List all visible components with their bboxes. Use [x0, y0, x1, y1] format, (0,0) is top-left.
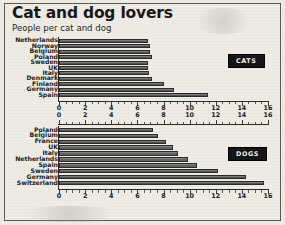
- x-axis-tick-label: 16: [264, 112, 273, 118]
- bar: [59, 44, 150, 48]
- x-axis-tick-minor: [72, 122, 73, 125]
- x-axis-tick-minor: [255, 102, 256, 105]
- x-axis-tick-minor: [177, 102, 178, 105]
- x-axis-tick-minor: [131, 102, 132, 105]
- x-axis-tick-major: [111, 120, 112, 124]
- bar: [59, 128, 153, 132]
- bar: [59, 71, 149, 75]
- x-axis-tick-label: 6: [135, 112, 139, 118]
- x-axis-tick-minor: [72, 190, 73, 193]
- x-axis-tick-minor: [150, 122, 151, 125]
- bar: [59, 169, 218, 173]
- x-axis-tick-label: 10: [185, 193, 194, 199]
- x-axis-tick-minor: [98, 122, 99, 125]
- x-axis-tick-minor: [79, 122, 80, 125]
- x-axis-tick-minor: [105, 122, 106, 125]
- x-axis-tick-label: 2: [83, 193, 87, 199]
- bar: [59, 55, 152, 59]
- x-axis-tick-minor: [196, 102, 197, 105]
- x-axis-tick-minor: [255, 190, 256, 193]
- x-axis-tick-label: 16: [264, 193, 273, 199]
- x-axis-tick-minor: [157, 122, 158, 125]
- x-axis-tick-minor: [209, 122, 210, 125]
- x-axis-tick-major: [59, 120, 60, 124]
- bar: [59, 77, 152, 81]
- bar: [59, 163, 197, 167]
- x-axis-tick-major: [216, 120, 217, 124]
- page-title: Cat and dog lovers: [12, 6, 173, 22]
- bar: [59, 175, 246, 179]
- x-axis-tick-major: [85, 120, 86, 124]
- x-axis-tick-minor: [235, 102, 236, 105]
- x-axis-tick-label: 6: [135, 193, 139, 199]
- x-axis-tick-minor: [118, 190, 119, 193]
- x-axis-tick-major: [268, 120, 269, 124]
- x-axis-tick-minor: [170, 102, 171, 105]
- x-axis-tick-minor: [203, 190, 204, 193]
- x-axis-tick-minor: [209, 102, 210, 105]
- x-axis-tick-minor: [177, 190, 178, 193]
- x-axis-tick-minor: [248, 122, 249, 125]
- x-axis-tick-minor: [222, 122, 223, 125]
- x-axis-tick-major: [242, 120, 243, 124]
- x-axis-tick-minor: [157, 102, 158, 105]
- x-axis-tick-label: 14: [237, 193, 246, 199]
- x-axis-tick-minor: [229, 102, 230, 105]
- x-axis-tick-minor: [196, 190, 197, 193]
- x-axis-tick-label: 0: [57, 112, 61, 118]
- x-axis-tick-minor: [66, 102, 67, 105]
- x-axis-tick-minor: [92, 102, 93, 105]
- x-axis-tick-minor: [235, 190, 236, 193]
- x-axis-tick-minor: [98, 190, 99, 193]
- bar: [59, 140, 166, 144]
- bar: [59, 66, 148, 70]
- bar: [59, 50, 150, 54]
- bar: [59, 134, 158, 138]
- x-axis-tick-minor: [150, 190, 151, 193]
- x-axis-tick-label: 4: [109, 193, 113, 199]
- x-axis-tick-minor: [261, 102, 262, 105]
- x-axis-tick-minor: [124, 122, 125, 125]
- x-axis-tick-minor: [131, 190, 132, 193]
- x-axis-tick-minor: [118, 102, 119, 105]
- x-axis-tick-minor: [222, 190, 223, 193]
- page-subtitle: People per cat and dog: [12, 24, 111, 33]
- x-axis-tick-minor: [124, 190, 125, 193]
- x-axis-tick-minor: [183, 190, 184, 193]
- dogs-chart: PolandBelgiumFranceUKItalyNetherlandsSpa…: [0, 124, 285, 202]
- bar: [59, 93, 208, 97]
- x-axis-tick-minor: [150, 102, 151, 105]
- x-axis-tick-minor: [79, 190, 80, 193]
- x-axis-tick-minor: [222, 102, 223, 105]
- x-axis-tick-minor: [66, 190, 67, 193]
- x-axis-tick-minor: [261, 190, 262, 193]
- bar: [59, 151, 178, 155]
- x-axis-tick-minor: [92, 122, 93, 125]
- x-axis-tick-minor: [144, 190, 145, 193]
- x-axis-tick-minor: [170, 190, 171, 193]
- x-axis-tick-minor: [72, 102, 73, 105]
- x-axis-tick-minor: [144, 102, 145, 105]
- x-axis-tick-minor: [66, 122, 67, 125]
- x-axis-tick-label: 0: [57, 193, 61, 199]
- x-axis-tick-minor: [118, 122, 119, 125]
- x-axis-tick-minor: [209, 190, 210, 193]
- chart-figure: Cat and dog lovers People per cat and do…: [0, 0, 285, 225]
- x-axis-tick-minor: [131, 122, 132, 125]
- x-axis-tick-label: 10: [185, 112, 194, 118]
- x-axis-tick-minor: [170, 122, 171, 125]
- x-axis-tick-major: [190, 120, 191, 124]
- y-axis-line: [58, 126, 59, 189]
- x-axis-tick-minor: [144, 122, 145, 125]
- x-axis-line-top: [58, 124, 269, 125]
- bar: [59, 181, 264, 185]
- x-axis-tick-minor: [229, 122, 230, 125]
- x-axis-tick-minor: [235, 122, 236, 125]
- bar: [59, 39, 148, 43]
- x-axis-tick-major: [137, 120, 138, 124]
- x-axis-tick-label: 14: [237, 112, 246, 118]
- x-axis-tick-label: 2: [83, 112, 87, 118]
- x-axis-tick-minor: [157, 190, 158, 193]
- x-axis-tick-minor: [98, 102, 99, 105]
- x-axis-tick-minor: [248, 102, 249, 105]
